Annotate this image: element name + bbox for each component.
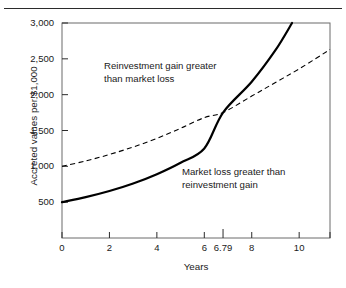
y-axis-tick-label: 1,000 <box>0 161 54 171</box>
annotation-reinvestment-gain-region: Reinvestment gain greater than market lo… <box>104 60 217 85</box>
x-axis-tick-label: 10 <box>279 243 319 253</box>
y-axis-tick-label: 2,000 <box>0 90 54 100</box>
y-axis-ticks <box>62 23 68 202</box>
plot-frame <box>62 23 330 238</box>
x-axis-tick-label: 4 <box>137 243 177 253</box>
x-axis-tick-label: 0 <box>42 243 82 253</box>
y-axis-title: Accreted values per $1,000 <box>29 41 39 211</box>
y-axis-tick-label: 500 <box>0 197 54 207</box>
chart-figure: 5001,0001,5002,0002,5003,000 02466.79810… <box>0 0 346 288</box>
x-axis-title: Years <box>62 262 330 272</box>
x-axis-tick-label: 2 <box>89 243 129 253</box>
y-axis-tick-label: 2,500 <box>0 54 54 64</box>
y-axis-tick-label: 3,000 <box>0 18 54 28</box>
y-axis-tick-label: 1,500 <box>0 126 54 136</box>
x-axis-ticks <box>62 229 330 238</box>
annotation-market-loss-region: Market loss greater than reinvestment ga… <box>182 166 285 191</box>
x-axis-tick-label: 8 <box>232 243 272 253</box>
